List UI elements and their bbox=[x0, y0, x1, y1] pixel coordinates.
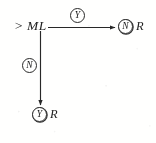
leaf-bottom-label: R bbox=[50, 108, 58, 121]
edge-label-yes-badge: Y bbox=[70, 8, 85, 23]
edge-label-no-badge: N bbox=[22, 58, 37, 73]
leaf-right-label: R bbox=[136, 20, 144, 33]
root-node-label: > ML bbox=[14, 19, 46, 33]
decision-tree-diagram: > ML Y N N R Y R bbox=[0, 0, 156, 143]
leaf-bottom-badge: Y bbox=[32, 107, 47, 122]
leaf-right-badge: N bbox=[118, 19, 133, 34]
